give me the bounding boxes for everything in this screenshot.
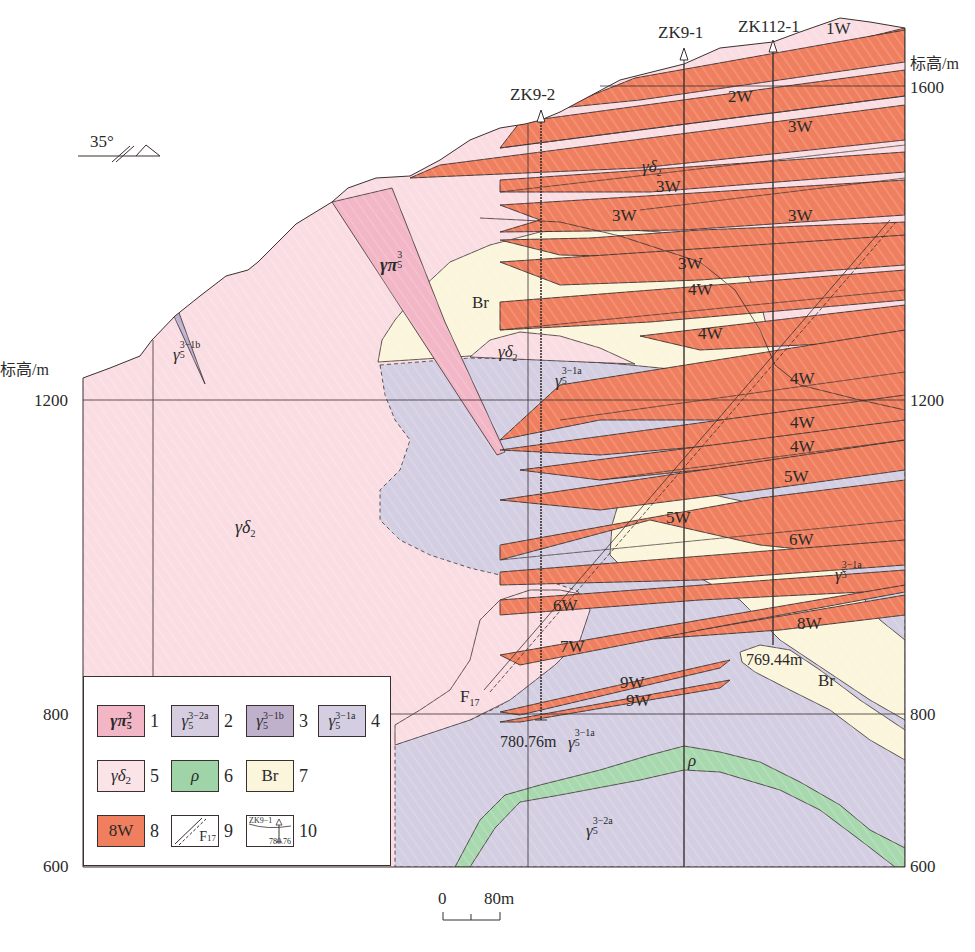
left-axis-title: 标高/m [0, 362, 49, 378]
ore-label-3w-a: 3W [788, 118, 813, 135]
left-tick-800: 800 [43, 706, 69, 723]
scale-bar-start: 0 [438, 890, 447, 907]
unit-label-rho: ρ [688, 752, 696, 769]
right-tick-600: 600 [910, 858, 936, 875]
ore-label-7w: 7W [560, 638, 585, 655]
ore-label-3w-e: 3W [678, 255, 703, 272]
ore-label-4w-a: 4W [688, 281, 713, 298]
legend-swatch-ore: 8W [97, 815, 145, 847]
legend-swatch-br: Br [246, 760, 294, 792]
right-tick-1600: 1600 [910, 79, 944, 96]
legend-swatch-gd2: γδ2 [97, 760, 145, 792]
unit-label-g1b: γ3−1b5 [173, 346, 200, 363]
unit-label-gpi: γπ35 [380, 256, 402, 274]
unit-label-g1a-upper: γ3−1a5 [555, 372, 582, 389]
legend-swatch-rho: ρ [171, 760, 219, 792]
borehole-label-zk9-2: ZK9-2 [510, 86, 555, 103]
legend-item-1: γπ35 1 [97, 705, 159, 737]
ore-label-9w-b: 9W [626, 692, 651, 709]
legend-swatch-g1a: γ3−1a5 [318, 705, 366, 737]
ore-label-6w-a: 6W [789, 531, 814, 548]
legend-swatch-g1b: γ3−1b5 [246, 705, 294, 737]
scale-bar [443, 912, 500, 920]
legend-item-10: ZK9−1 780.76 10 [246, 815, 317, 847]
ore-label-5w-a: 5W [784, 468, 809, 485]
unit-label-gd2-main: γδ2 [235, 518, 255, 536]
ore-label-4w-c: 4W [790, 370, 815, 387]
scale-bar-end: 80m [484, 890, 514, 907]
ore-label-8w: 8W [797, 615, 822, 632]
unit-label-g1a-bottom: γ3−1a5 [568, 734, 595, 751]
ore-label-4w-e: 4W [790, 438, 815, 455]
unit-label-br-lower: Br [818, 672, 835, 689]
legend-item-2: γ3−2a5 2 [171, 705, 233, 737]
unit-label-gd2-mid: γδ2 [498, 343, 518, 360]
ore-label-3w-d: 3W [788, 207, 813, 224]
unit-label-g1a-right: γ3−1a5 [835, 566, 862, 583]
unit-label-g2a: γ3−2a5 [586, 822, 613, 839]
legend-item-5: γδ2 5 [97, 760, 159, 792]
ore-label-6w-b: 6W [553, 597, 578, 614]
right-tick-1200: 1200 [910, 392, 944, 409]
borehole-depth-zk112-1: 769.44m [746, 652, 802, 668]
legend-item-3: γ3−1b5 3 [246, 705, 308, 737]
ore-label-9w-a: 9W [620, 674, 645, 691]
ore-label-2w: 2W [728, 88, 753, 105]
ore-label-5w-b: 5W [666, 509, 691, 526]
unit-label-br-upper: Br [472, 294, 489, 311]
legend-swatch-gpi: γπ35 [97, 705, 145, 737]
legend-item-4: γ3−1a5 4 [318, 705, 380, 737]
legend-item-9: F17 9 [171, 815, 233, 847]
right-axis-title: 标高/m [910, 56, 959, 72]
ore-label-4w-b: 4W [698, 325, 723, 342]
ore-label-1w: 1W [826, 20, 851, 37]
legend-item-6: ρ 6 [171, 760, 233, 792]
ore-label-3w-c: 3W [612, 207, 637, 224]
left-tick-600: 600 [43, 858, 69, 875]
legend-swatch-borehole: ZK9−1 780.76 [246, 815, 294, 847]
right-tick-800: 800 [910, 706, 936, 723]
legend-item-8: 8W 8 [97, 815, 159, 847]
legend-item-7: Br 7 [246, 760, 308, 792]
borehole-label-zk112-1: ZK112-1 [738, 18, 800, 35]
ore-label-4w-d: 4W [790, 414, 815, 431]
borehole-label-zk9-1: ZK9-1 [658, 24, 703, 41]
dip-angle-label: 35° [90, 133, 114, 150]
left-tick-1200: 1200 [34, 392, 68, 409]
legend: γπ35 1 γ3−2a5 2 γ3−1b5 3 γ3−1a5 4 γδ2 5 … [83, 676, 391, 866]
fault-label: F17 [460, 688, 479, 705]
unit-label-gd2-upper: γδ2 [642, 158, 662, 175]
legend-swatch-fault: F17 [171, 815, 219, 847]
borehole-depth-zk9-2: 780.76m [500, 734, 556, 750]
legend-swatch-g2a: γ3−2a5 [171, 705, 219, 737]
ore-label-3w-b: 3W [656, 178, 681, 195]
